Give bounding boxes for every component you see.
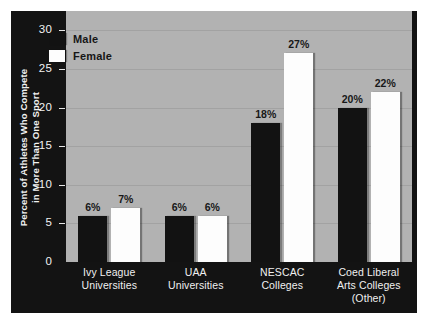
category-label-line: UAA [153,266,240,279]
legend-item-female: Female [49,50,112,62]
x-axis-category-labels: Ivy LeagueUniversitiesUAAUniversitiesNES… [66,266,412,314]
y-axis-tick-mark [59,223,65,224]
legend-label-male: Male [73,34,98,45]
y-axis-tick-mark [59,185,65,186]
bar-male [251,123,280,262]
x-axis-category-label: Ivy LeagueUniversities [66,266,153,292]
y-axis-tick-label: 0 [12,256,52,268]
x-axis-category-label: Coed LiberalArts Colleges(Other) [326,266,413,305]
white-square-swatch-icon [49,50,65,62]
category-label-line: (Other) [326,292,413,305]
bar-value-label: 27% [278,39,319,50]
bar-value-label: 7% [105,194,146,205]
y-axis-tick-label: 10 [12,179,52,191]
bar-value-label: 6% [192,202,233,213]
legend-item-male: Male [49,33,112,45]
y-axis-tick-label: 15 [12,140,52,152]
x-axis-category-label: NESCACColleges [239,266,326,292]
y-axis-tick-label: 25 [12,63,52,75]
bar-male [78,216,107,262]
category-label-line: Universities [66,279,153,292]
bar-value-label: 22% [365,78,406,89]
bar-value-label: 18% [245,109,286,120]
bar-male [165,216,194,262]
chart-figure: 6%7%6%6%18%27%20%22% Percent of Athletes… [0,0,428,332]
chart-legend: Male Female [49,33,112,67]
plot-area: 6%7%6%6%18%27%20%22% [66,11,412,262]
bar-female [111,208,140,262]
category-label-line: Coed Liberal [326,266,413,279]
category-label-line: Colleges [239,279,326,292]
bar-female [284,53,313,262]
black-square-swatch-icon [49,33,65,45]
y-axis-tick-mark [59,108,65,109]
gridline [66,69,412,70]
bar-value-label: 20% [332,94,373,105]
y-axis-tick-label: 5 [12,217,52,229]
category-label-line: NESCAC [239,266,326,279]
y-axis-tick-mark [59,30,65,31]
category-label-line: Ivy League [66,266,153,279]
bar-female [198,216,227,262]
category-label-line: Arts Colleges [326,279,413,292]
y-axis: Percent of Athletes Who Compete in More … [0,0,56,332]
y-axis-tick-label: 20 [12,102,52,114]
bar-female [371,92,400,262]
gridline [66,30,412,31]
bar-male [338,108,367,262]
category-label-line: Universities [153,279,240,292]
y-axis-tick-label: 30 [12,24,52,36]
legend-label-female: Female [73,51,112,62]
y-axis-tick-mark [59,146,65,147]
x-axis-category-label: UAAUniversities [153,266,240,292]
y-axis-tick-mark [59,69,65,70]
